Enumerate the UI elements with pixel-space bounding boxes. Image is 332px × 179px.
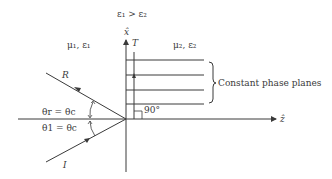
medium-2-label: μ₂, ε₂	[173, 40, 196, 50]
incident-label: I	[63, 160, 67, 170]
incident-angle-label: θ1 = θc	[42, 123, 77, 133]
right-angle-marker	[134, 111, 142, 119]
reflected-angle-label: θr = θc	[42, 107, 75, 117]
brace-icon	[209, 62, 216, 103]
phase-planes-label: Constant phase planes	[218, 78, 321, 88]
incident-arrow-icon	[84, 138, 90, 143]
diagram-canvas	[0, 0, 332, 179]
permittivity-condition: ε₁ > ε₂	[117, 9, 147, 19]
right-angle-label: 90°	[144, 105, 160, 115]
incident-angle-arc	[90, 121, 95, 136]
x-axis-label: x̂	[124, 27, 129, 37]
transmitted-label: T	[132, 38, 138, 48]
z-axis-label: ẑ	[280, 114, 285, 124]
reflected-angle-arc	[90, 102, 93, 117]
reflected-label: R	[62, 70, 69, 80]
medium-1-label: μ₁, ε₁	[67, 40, 90, 50]
